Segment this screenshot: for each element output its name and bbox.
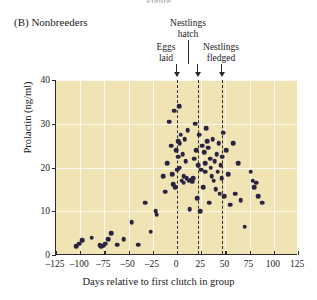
data-point (149, 230, 154, 235)
data-point (197, 132, 202, 137)
data-point (106, 237, 111, 242)
annotation-fledged-line1: Nestlings (190, 42, 252, 53)
x-tick-label: 100 (266, 259, 280, 269)
data-point (187, 207, 192, 212)
x-tick-label: –125 (46, 259, 65, 269)
event-marker-arrow-2 (221, 64, 222, 76)
annotation-fledged-line2: fledged (190, 53, 252, 64)
annotation-eggs-line1: Eggs (145, 42, 187, 53)
data-point (121, 237, 126, 242)
y-tick-label: 10 (41, 206, 51, 216)
data-point (115, 242, 120, 247)
x-tick (104, 251, 105, 255)
annotation-nestlings-hatch: Nestlings hatch (152, 18, 224, 39)
data-point (170, 172, 175, 177)
x-tick-label: 0 (174, 259, 179, 269)
y-tick (52, 255, 56, 256)
gridline-x (104, 80, 105, 254)
data-point (242, 224, 247, 229)
event-marker-arrow-1 (197, 64, 198, 76)
x-tick (177, 251, 178, 255)
data-point (174, 148, 179, 153)
annotation-hatch-line2: hatch (152, 29, 224, 40)
x-tick (56, 251, 57, 255)
cut-off-figure-title: Figure (0, 0, 317, 3)
data-point (203, 170, 208, 175)
data-point (193, 121, 198, 126)
annotation-eggs-line2: laid (145, 53, 187, 64)
data-point (221, 130, 226, 135)
page-title: (B) Nonbreeders (14, 16, 88, 28)
x-axis-tick-labels: –125–100–75–50–250255075100125 (55, 259, 297, 273)
data-point (90, 235, 95, 240)
figure-panel: Figure (B) Nonbreeders Nestlings hatch E… (0, 0, 317, 300)
data-point (161, 174, 166, 179)
annotation-divider (188, 40, 189, 64)
data-point (195, 196, 200, 201)
x-tick (80, 251, 81, 255)
gridline-x (274, 80, 275, 254)
data-point (216, 141, 221, 146)
x-tick (250, 251, 251, 255)
data-point (206, 146, 211, 151)
data-point (173, 185, 178, 190)
data-point (205, 139, 210, 144)
data-point (211, 137, 216, 142)
y-tick-label: 30 (41, 119, 51, 129)
data-point (204, 126, 209, 131)
data-point (136, 242, 141, 247)
y-tick-label: 40 (41, 75, 51, 85)
y-tick (52, 168, 56, 169)
data-point (211, 178, 216, 183)
data-point (191, 176, 196, 181)
data-point (218, 163, 223, 168)
data-point (167, 119, 172, 124)
y-tick (52, 211, 56, 212)
x-tick-label: –75 (96, 259, 110, 269)
data-point (169, 143, 174, 148)
data-point (220, 154, 225, 159)
data-point (165, 161, 170, 166)
annotation-nestlings-fledged: Nestlings fledged (190, 42, 252, 63)
x-tick-label: 25 (195, 259, 205, 269)
x-tick-label: 125 (290, 259, 304, 269)
data-point (226, 172, 231, 177)
data-point (183, 159, 188, 164)
data-point (178, 165, 183, 170)
data-point (163, 189, 168, 194)
data-point (256, 194, 261, 199)
data-point (201, 185, 206, 190)
data-point (236, 161, 241, 166)
data-point (207, 200, 212, 205)
x-tick (274, 251, 275, 255)
data-point (129, 220, 134, 225)
scatter-plot-area (55, 80, 297, 255)
data-point (109, 231, 114, 236)
data-point (212, 159, 217, 164)
y-tick (52, 80, 56, 81)
annotation-eggs-laid: Eggs laid (145, 42, 187, 63)
data-point (203, 161, 208, 166)
x-tick (298, 251, 299, 255)
data-point (198, 209, 203, 214)
data-point (194, 148, 199, 153)
data-point (215, 170, 220, 175)
data-point (172, 108, 177, 113)
x-tick (225, 251, 226, 255)
gridline-x (298, 80, 299, 254)
data-point (200, 143, 205, 148)
data-point (248, 170, 253, 175)
x-tick-label: –100 (70, 259, 89, 269)
data-point (177, 104, 182, 109)
data-point (224, 148, 229, 153)
annotation-hatch-line1: Nestlings (152, 18, 224, 29)
data-point (214, 152, 219, 157)
gridline-x (80, 80, 81, 254)
y-axis-title: Prolactin (ng/ml) (22, 38, 33, 198)
x-tick-label: 75 (244, 259, 254, 269)
data-point (219, 176, 224, 181)
data-point (231, 141, 236, 146)
gridline-x (250, 80, 251, 254)
x-tick-label: 50 (220, 259, 230, 269)
gridline-x (129, 80, 130, 254)
